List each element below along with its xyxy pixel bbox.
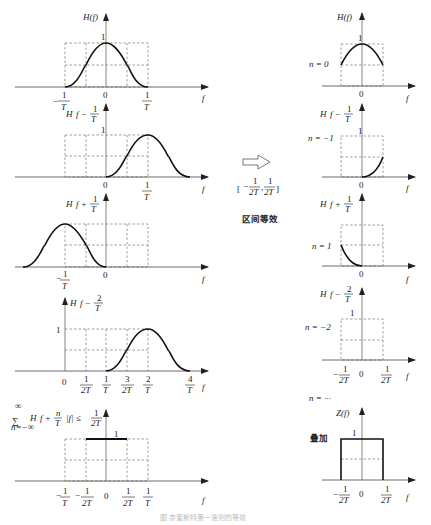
- peak-label: 1: [114, 429, 119, 439]
- y-label: H: [319, 199, 327, 209]
- right-plot-n-plus-1: H f + 1 T n = 1 0 f: [312, 194, 415, 284]
- y-label-arg: f −: [80, 298, 91, 308]
- minus-sign: −: [243, 181, 248, 191]
- tick-den: T: [145, 498, 151, 508]
- frac-num: 1: [93, 104, 98, 114]
- tick-den: 2T: [339, 495, 350, 505]
- x-label: f: [202, 382, 206, 392]
- right-arrow-icon: [243, 155, 270, 169]
- y-label-arg: f −: [76, 109, 87, 119]
- y-label: H(f): [336, 12, 352, 22]
- frac-den: T: [55, 418, 61, 428]
- plot-h-f-plus-1-over-t: H f + 1 T 0 − 1 T f: [15, 194, 208, 291]
- plot-sum: ∑ ∞ n=−∞ H f + n T |f| ≤ 1 2T 1 − 1 T − …: [11, 401, 208, 508]
- plot-h-f-minus-2-over-t: H f − 2 T 1 0 1 2T 1 T 3 2T 2 T 4 T f: [15, 293, 208, 395]
- tick-num: 1: [145, 180, 150, 190]
- frac-den: T: [91, 114, 97, 124]
- frac-num: 1: [94, 408, 99, 418]
- x-label: f: [202, 184, 206, 194]
- peak-label: 1: [101, 125, 106, 135]
- peak-label: 1: [352, 428, 357, 438]
- y-label-arg: f +: [330, 199, 341, 209]
- frac-den: T: [345, 294, 351, 304]
- n-label: n = 0: [309, 59, 329, 69]
- peak-label: 1: [101, 32, 106, 42]
- x-label: f: [406, 274, 410, 284]
- comma: ,: [261, 182, 263, 192]
- tick-0: 0: [359, 89, 364, 99]
- right-plot-n-minus-1: H f − 1 T 1 n = −1 0 f: [308, 104, 415, 193]
- tick-0: 0: [359, 269, 364, 279]
- n-label: n = −2: [305, 322, 331, 332]
- grid-lines: [65, 224, 148, 267]
- frac-den: T: [91, 204, 97, 214]
- minus-sign: −: [75, 490, 80, 500]
- tick-0: 0: [103, 270, 108, 280]
- tick-num: 1: [385, 484, 390, 494]
- tick-den: T: [62, 498, 68, 508]
- tick-den: T: [62, 281, 68, 291]
- folded-segment: [341, 245, 362, 266]
- y-label: H: [69, 298, 77, 308]
- frac-num: 1: [93, 194, 98, 204]
- tick-0: 0: [359, 180, 364, 190]
- peak-label: 1: [358, 33, 363, 43]
- peak-label: 1: [350, 308, 355, 318]
- minus-sign: −: [56, 273, 61, 283]
- tick-den: 2T: [381, 495, 392, 505]
- y-label: H: [65, 109, 73, 119]
- tick-num: 1: [126, 486, 131, 496]
- plot-h-f: H(f) 1 0 1 − T 1 T f: [15, 12, 208, 112]
- y-label-arg: f +: [76, 199, 87, 209]
- sum-upper: ∞: [15, 401, 21, 411]
- y-label: H: [65, 199, 73, 209]
- x-label: f: [406, 492, 410, 502]
- x-label: f: [406, 93, 410, 103]
- frac-den: 2T: [249, 187, 260, 197]
- tick-den: 2T: [82, 498, 93, 508]
- tick-neg-1-over-t-num: 1: [62, 90, 67, 100]
- superpose-label: 叠加: [310, 433, 328, 443]
- tick-0: 0: [103, 180, 108, 190]
- tick-num: 1: [84, 374, 89, 384]
- y-label: H: [319, 289, 327, 299]
- y-label: H(f): [82, 12, 98, 22]
- tick-num: 3: [125, 374, 130, 384]
- tick-den: 2T: [123, 498, 134, 508]
- x-label: f: [202, 495, 206, 505]
- minus-sign: −: [56, 490, 61, 500]
- tick-num: 1: [343, 484, 348, 494]
- folded-segment: [362, 157, 383, 177]
- sum-arg: f +: [40, 413, 51, 423]
- frac-num: 1: [347, 194, 352, 204]
- peak-label: 1: [56, 325, 61, 335]
- tick-den: 2T: [381, 375, 392, 385]
- minus-sign: −: [333, 369, 338, 379]
- frac-num: 2: [97, 293, 102, 303]
- tick-1-over-t-num: 1: [145, 90, 150, 100]
- minus-sign: −: [53, 96, 58, 106]
- frac-num: 1: [253, 176, 258, 186]
- y-label: Z(f): [336, 408, 350, 418]
- bracket-left: [: [237, 184, 240, 194]
- bracket-right: ]: [276, 184, 279, 194]
- tick-den: T: [144, 102, 150, 112]
- right-plot-n0: H(f) 1 n = 0 0 f: [309, 12, 415, 103]
- x-label: f: [202, 93, 206, 103]
- n-label: n = −1: [308, 133, 334, 143]
- tick-num: 1: [343, 364, 348, 374]
- sum-H: H: [29, 413, 37, 423]
- tick-0: 0: [103, 90, 108, 100]
- tick-num: 2: [146, 374, 151, 384]
- peak-label: 1: [358, 126, 363, 136]
- tick-num: 1: [385, 364, 390, 374]
- plot-h-f-minus-1-over-t: H f − 1 T 1 0 1 T f: [15, 104, 208, 202]
- right-plot-n-minus-2: H f − 2 T 1 n = −2 − 1 2T 0 1 2T f: [305, 284, 415, 385]
- frac-den: 2T: [264, 187, 275, 197]
- tick-num: 4: [188, 374, 193, 384]
- equivalence-arrow-group: [ − 1 2T , 1 2T ] 区间等效: [237, 155, 279, 224]
- tick-num: 1: [85, 486, 90, 496]
- frac-den: 2T: [91, 418, 102, 428]
- tick-den: T: [187, 385, 193, 395]
- tick-0: 0: [104, 491, 109, 501]
